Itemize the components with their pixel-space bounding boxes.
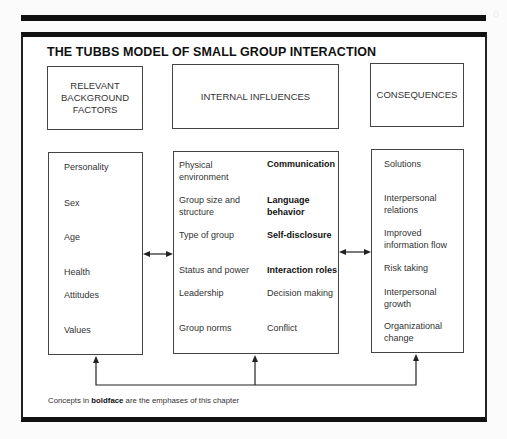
footnote: Concepts in boldface are the emphases of… [48, 396, 239, 405]
connector-arrows [0, 0, 507, 439]
footnote-bold: boldface [91, 396, 123, 405]
footnote-suffix: are the emphases of this chapter [123, 396, 239, 405]
footnote-prefix: Concepts in [48, 396, 91, 405]
